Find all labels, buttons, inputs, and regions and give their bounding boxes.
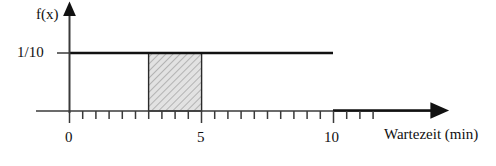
x-axis-ticks bbox=[70, 111, 374, 123]
x-tick-label-5: 5 bbox=[197, 130, 205, 145]
x-axis-title: Wartezeit (min) bbox=[384, 127, 478, 142]
uniform-distribution-figure: f(x) 1/10 0 5 10 Wartezeit (min) bbox=[0, 0, 496, 166]
x-tick-label-10: 10 bbox=[324, 130, 339, 145]
shaded-probability-region bbox=[149, 53, 202, 111]
y-tick-label-density: 1/10 bbox=[17, 45, 44, 60]
y-axis-title: f(x) bbox=[36, 7, 59, 22]
x-tick-label-0: 0 bbox=[65, 130, 73, 145]
